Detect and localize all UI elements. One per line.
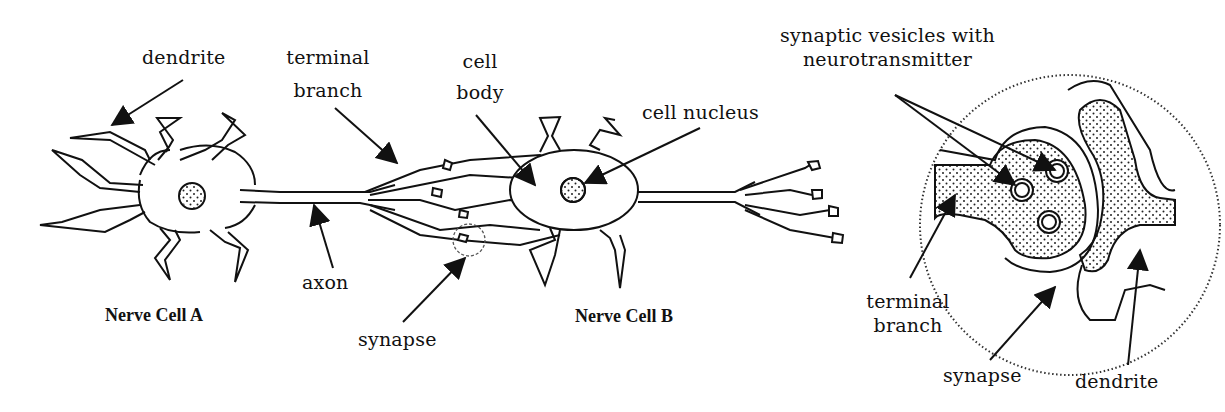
nerve-cell-a (40, 113, 395, 282)
label-inset-terminal-branch-line2: branch (858, 314, 958, 336)
label-inset-terminal-branch: terminal branch (858, 290, 958, 336)
label-cell-nucleus: cell nucleus (642, 101, 759, 123)
label-dendrite: dendrite (142, 46, 225, 68)
neuron-diagram: dendrite terminal branch axon Nerve Cell… (0, 0, 1225, 412)
label-cell-body-line1: cell (440, 50, 520, 72)
label-synaptic-vesicles-line2: neurotransmitter (760, 48, 1015, 70)
label-terminal-branch-line2: branch (278, 79, 378, 101)
label-synaptic-vesicles-line1: synaptic vesicles with (760, 24, 1015, 46)
title-nerve-cell-a: Nerve Cell A (105, 305, 203, 326)
label-cell-body: cell body (440, 50, 520, 103)
label-synaptic-vesicles: synaptic vesicles with neurotransmitter (760, 24, 1015, 70)
synapse-inset (920, 75, 1220, 375)
title-nerve-cell-b: Nerve Cell B (575, 306, 673, 327)
arrow-inset-terminal-branch (910, 195, 955, 278)
label-terminal-branch-line1: terminal (278, 46, 378, 68)
label-inset-terminal-branch-line1: terminal (858, 290, 958, 312)
arrow-synapse (403, 258, 465, 322)
arrow-inset-dendrite (1128, 250, 1140, 365)
label-terminal-branch: terminal branch (278, 46, 378, 101)
label-synapse: synapse (358, 328, 437, 350)
arrow-cell-body (476, 115, 535, 185)
arrow-inset-synapse (990, 287, 1055, 360)
arrow-vesicle-2 (895, 95, 1055, 170)
label-axon: axon (302, 271, 349, 293)
label-inset-dendrite: dendrite (1075, 370, 1158, 392)
arrow-axon (314, 205, 333, 268)
cell-a-nucleus (180, 184, 204, 208)
label-cell-body-line2: body (440, 81, 520, 103)
label-inset-synapse: synapse (943, 364, 1022, 386)
arrow-terminal-branch (335, 108, 397, 163)
nerve-cell-b (510, 117, 843, 288)
